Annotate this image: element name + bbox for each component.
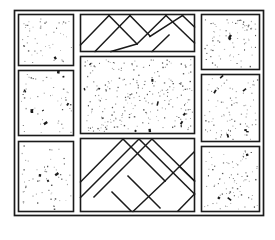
stipple-fleck	[24, 61, 25, 62]
stipple-fleck	[60, 50, 61, 51]
stipple-fleck	[240, 160, 241, 161]
stipple-fleck	[92, 70, 93, 71]
stipple-fleck	[117, 87, 118, 88]
stipple-fleck	[214, 185, 215, 186]
stipple-fleck	[120, 120, 121, 121]
stipple-fleck	[231, 174, 232, 175]
stipple-fleck	[236, 183, 237, 184]
stipple-fleck	[27, 42, 28, 43]
stipple-fleck	[191, 90, 192, 91]
stipple-fleck	[221, 134, 222, 135]
stipple-fleck	[129, 117, 130, 118]
stipple-fleck	[189, 88, 190, 89]
stipple-fleck	[177, 97, 178, 98]
stipple-fleck	[32, 178, 33, 179]
stipple-fleck	[214, 186, 215, 187]
stipple-fleck	[58, 123, 59, 124]
stipple-fleck	[153, 60, 154, 61]
stipple-fleck	[88, 105, 89, 106]
stipple-fleck	[162, 90, 163, 91]
stipple-fleck	[139, 100, 140, 101]
stipple-fleck	[59, 200, 60, 201]
stipple-fleck	[188, 127, 189, 128]
stipple-fleck	[208, 175, 209, 176]
stipple-fleck	[223, 114, 224, 115]
stipple-fleck	[40, 26, 41, 27]
stipple-fleck	[145, 112, 146, 113]
stipple-fleck	[92, 109, 93, 110]
stipple-fleck	[88, 115, 89, 116]
stipple-fleck	[46, 171, 47, 172]
stipple-fleck	[237, 33, 238, 34]
stipple-fleck	[94, 66, 95, 67]
stipple-fleck	[29, 30, 30, 31]
stipple-fleck	[228, 37, 229, 38]
stipple-fleck	[175, 120, 176, 121]
stipple-fleck	[169, 101, 170, 102]
stipple-fleck	[180, 119, 181, 120]
stipple-fleck	[243, 156, 244, 157]
stipple-fleck	[250, 139, 251, 140]
stipple-fleck	[37, 202, 38, 203]
stipple-fleck	[244, 49, 245, 50]
stipple-fleck	[62, 76, 64, 78]
stipple-fleck	[255, 29, 256, 30]
stipple-fleck	[231, 60, 232, 61]
stipple-fleck	[142, 122, 143, 123]
stipple-fleck	[209, 169, 210, 170]
stipple-fleck	[40, 124, 41, 125]
stipple-fleck	[164, 82, 165, 83]
stipple-fleck	[186, 113, 187, 114]
stipple-fleck	[207, 205, 208, 206]
stipple-fleck	[37, 96, 38, 97]
stipple-fleck	[210, 56, 211, 57]
stipple-fleck	[24, 131, 25, 132]
stipple-fleck	[33, 78, 34, 79]
stipple-fleck	[251, 93, 252, 94]
stipple-fleck	[41, 132, 42, 133]
stipple-fleck	[185, 66, 186, 67]
stipple-fleck	[185, 65, 186, 66]
stipple-fleck	[190, 109, 191, 110]
stipple-fleck	[28, 77, 29, 78]
stipple-fleck	[97, 85, 98, 86]
stipple-fleck	[137, 126, 138, 127]
stipple-fleck	[232, 22, 233, 23]
stipple-fleck	[212, 50, 213, 51]
stipple-fleck	[255, 119, 256, 120]
stipple-fleck	[204, 206, 205, 207]
stipple-fleck	[165, 108, 166, 109]
stipple-fleck	[185, 109, 186, 110]
stipple-fleck	[49, 45, 50, 46]
stipple-fleck	[229, 114, 230, 115]
stipple-fleck	[91, 111, 92, 112]
stipple-fleck	[119, 78, 120, 79]
stipple-fleck	[98, 128, 99, 129]
stipple-fleck	[236, 91, 237, 92]
stipple-fleck	[147, 94, 148, 95]
stipple-fleck	[63, 61, 64, 62]
stipple-fleck	[216, 132, 217, 133]
stipple-fleck	[125, 99, 126, 100]
stipple-fleck	[226, 35, 227, 36]
stipple-fleck	[226, 162, 227, 163]
stipple-fleck	[245, 152, 246, 153]
stipple-fleck	[180, 82, 181, 83]
stipple-fleck	[28, 50, 29, 51]
stipple-fleck	[44, 23, 45, 24]
stipple-fleck	[142, 88, 143, 89]
stipple-fleck	[28, 161, 29, 162]
stipple-fleck	[123, 107, 124, 108]
stipple-fleck	[122, 113, 123, 114]
stipple-fleck	[23, 91, 24, 92]
stipple-fleck	[32, 55, 33, 56]
stipple-fleck	[99, 106, 100, 107]
stipple-fleck	[50, 95, 51, 96]
stipple-fleck	[240, 20, 241, 21]
stipple-fleck	[157, 71, 158, 72]
stipple-fleck	[95, 95, 96, 96]
stipple-fleck	[233, 167, 234, 168]
stipple-fleck	[45, 169, 46, 170]
stipple-fleck	[121, 68, 122, 69]
stipple-fleck	[188, 99, 189, 100]
